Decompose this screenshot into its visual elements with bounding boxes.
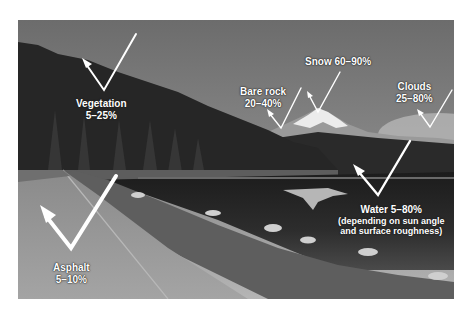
water-note-line2: and surface roughness) (338, 226, 445, 237)
label-bare-rock: Bare rock 20–40% (240, 86, 286, 109)
snow-title: Snow 60–90% (305, 56, 371, 68)
asphalt-range: 5–10% (53, 274, 90, 286)
label-vegetation: Vegetation 5–25% (76, 98, 127, 121)
water-title: Water 5–80% (338, 204, 445, 216)
albedo-photo: Vegetation 5–25% Bare rock 20–40% Snow 6… (18, 20, 454, 299)
landscape-scene (18, 20, 454, 299)
clouds-range: 25–80% (396, 93, 433, 105)
label-water: Water 5–80% (depending on sun angle and … (338, 204, 445, 237)
label-snow: Snow 60–90% (305, 56, 371, 68)
bare-rock-title: Bare rock (240, 86, 286, 98)
vegetation-range: 5–25% (76, 110, 127, 122)
vegetation-title: Vegetation (76, 98, 127, 110)
bare-rock-range: 20–40% (240, 98, 286, 110)
water-note-line1: (depending on sun angle (338, 216, 445, 227)
asphalt-title: Asphalt (53, 262, 90, 274)
label-clouds: Clouds 25–80% (396, 81, 433, 104)
label-asphalt: Asphalt 5–10% (53, 262, 90, 285)
clouds-title: Clouds (396, 81, 433, 93)
